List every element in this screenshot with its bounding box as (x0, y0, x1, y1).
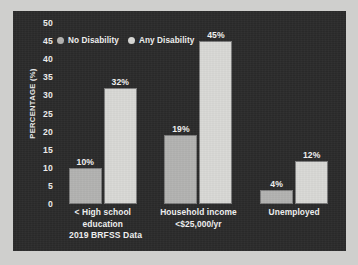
x-axis-label-line: <$25,000/yr (151, 219, 247, 231)
y-axis-tick-10: 10 (31, 163, 53, 173)
bar-value-label: 45% (207, 30, 225, 40)
x-axis-labels: < High school educationHousehold income<… (55, 207, 342, 247)
bar-2-2[interactable] (199, 41, 232, 204)
y-axis-tick-15: 15 (31, 145, 53, 155)
bar-value-label: 12% (303, 150, 321, 160)
chart-page: PERCENTAGE (%) 05101520253035404550 No D… (0, 0, 358, 265)
x-axis-label-3: Unemployed (246, 207, 342, 219)
source-note: 2019 BRFSS Data (69, 230, 142, 240)
y-axis-tick-50: 50 (31, 18, 53, 28)
y-axis-tick-5: 5 (31, 181, 53, 191)
bar-value-label: 10% (77, 157, 95, 167)
bar-value-label: 19% (172, 124, 190, 134)
x-axis-label-1: < High school education (55, 207, 151, 230)
bar-1-1[interactable] (69, 168, 102, 204)
chart-panel: PERCENTAGE (%) 05101520253035404550 No D… (13, 11, 346, 251)
bar-value-label: 4% (270, 179, 283, 189)
x-axis-label-2: Household income<$25,000/yr (151, 207, 247, 230)
y-axis-tick-20: 20 (31, 127, 53, 137)
bar-1-2[interactable] (104, 88, 137, 204)
y-axis-tick-25: 25 (31, 109, 53, 119)
bar-group-1: 10%32% (55, 23, 151, 204)
y-axis-tick-40: 40 (31, 54, 53, 64)
y-axis-tick-0: 0 (31, 199, 53, 209)
bar-3-1[interactable] (260, 190, 293, 204)
bar-group-2: 19%45% (151, 23, 247, 204)
y-axis-tick-30: 30 (31, 90, 53, 100)
y-axis-tick-45: 45 (31, 36, 53, 46)
bar-3-2[interactable] (295, 161, 328, 204)
bar-2-1[interactable] (164, 135, 197, 204)
plot-area: 10%32%19%45%4%12% (55, 23, 342, 204)
x-axis-label-line: < High school education (55, 207, 151, 230)
bar-group-3: 4%12% (246, 23, 342, 204)
y-axis-ticks: 05101520253035404550 (31, 23, 53, 204)
x-axis-label-line: Unemployed (246, 207, 342, 219)
bar-value-label: 32% (112, 77, 130, 87)
x-axis-label-line: Household income (151, 207, 247, 219)
y-axis-tick-35: 35 (31, 72, 53, 82)
